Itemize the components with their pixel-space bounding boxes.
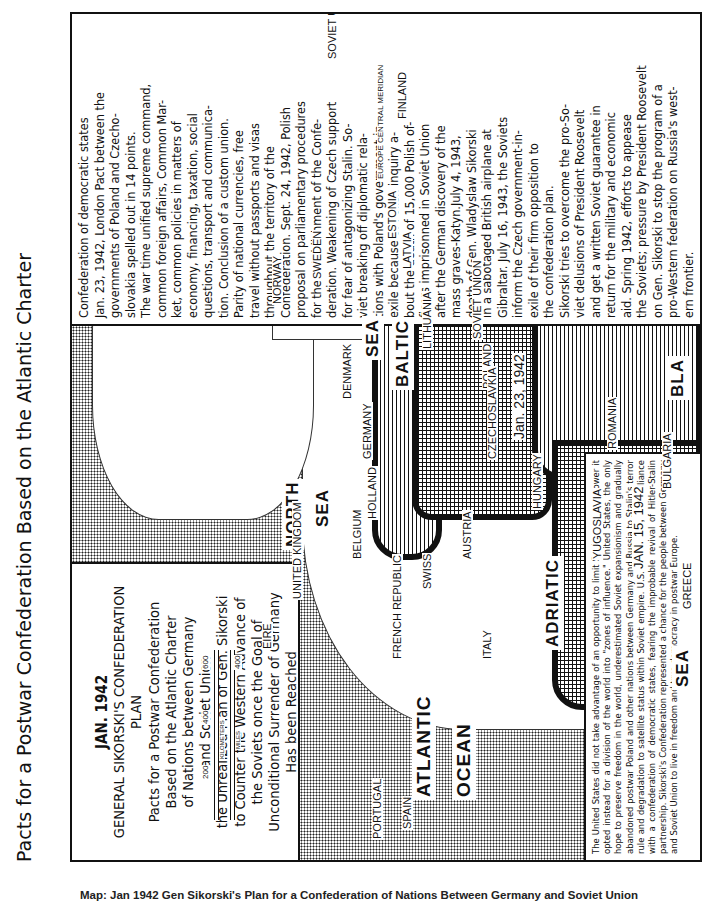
pact-date-south: JAN. 15, 1942 [632, 486, 645, 570]
history-footer: CONFEDERATION PLAN [698, 18, 702, 318]
country-united-kingdom: UNITED KINGDOM [292, 501, 303, 600]
title-date: JAN. 1942 [94, 570, 111, 854]
country-swiss: SWISS [422, 553, 433, 590]
country-denmark: DENMARK [342, 343, 353, 400]
sea-label-baltic: BALTIC [392, 317, 414, 390]
title-box: JAN. 1942 GENERAL SIKORSKI'S CONFEDERATI… [70, 562, 300, 862]
rotated-map-page: Pacts for a Postwar Confederation Based … [0, 0, 711, 880]
country-belgium: BELGIUM [352, 508, 363, 560]
sea-label-atlantic: ATLANTIC [412, 692, 436, 800]
country-spain: SPAIN [402, 796, 413, 830]
country-romania: ROMANIA [607, 397, 618, 450]
pact-date-north: Jan. 23, 1942 [512, 353, 526, 440]
country-finland: FINLAND [397, 71, 408, 120]
scale-bar: 200 400 600 KILOMETERS MILES 400 [202, 650, 242, 820]
country-portugal: PORTUGAL [372, 778, 383, 840]
figure-caption: Map: Jan 1942 Gen Sikorski's Plan for a … [0, 890, 711, 902]
sea-label-adriatic-sea: SEA [672, 646, 694, 690]
country-soviet-union-north: SOVIET UNION [327, 12, 338, 60]
country-austria: AUSTRIA [462, 510, 473, 560]
country-sweden: SWEDEN [312, 230, 323, 280]
country-bulgaria: BULGARIA [662, 432, 673, 490]
country-germany: GERMANY [362, 402, 373, 460]
country-greece: GREECE [682, 562, 693, 610]
country-italy: ITALY [482, 629, 493, 660]
history-box: Confederation of democratic states Jan. … [70, 12, 702, 326]
country-holland: HOLLAND [367, 466, 378, 520]
country-hungary: HUNGARY [532, 453, 543, 510]
country-yugoslavia: YUGOSLAVIA [592, 488, 603, 560]
sea-label-north-sea: SEA [312, 486, 334, 530]
side-banner: Pacts for a Postwar Confederation Based … [4, 16, 44, 862]
sea-label-ocean: OCEAN [452, 720, 476, 800]
country-norway: NORWAY [272, 255, 283, 305]
country-czechoslavkia: CZECHOSLAVKIA [487, 367, 498, 461]
country-lithuania: LITHUANIA [422, 291, 433, 350]
sea-label-adriatic: ADRIATIC [542, 556, 564, 650]
country-latvia: LATVIA [402, 231, 413, 270]
map-frame: JAN. 1942 GENERAL SIKORSKI'S CONFEDERATI… [70, 12, 702, 862]
country-french-republic: FRENCH REPUBLIC [392, 554, 403, 660]
country-estonia: ESTONIA [387, 190, 398, 240]
sea-label-black: BLA [667, 356, 689, 400]
country-eire: EIRE [262, 622, 273, 650]
sea-label-baltic-sea: SEA [362, 316, 384, 360]
country-soviet-union-east: SOVIET UNION [472, 259, 483, 340]
meridian-label: EUROPE CENTRAL MERIDIAN [377, 64, 385, 180]
